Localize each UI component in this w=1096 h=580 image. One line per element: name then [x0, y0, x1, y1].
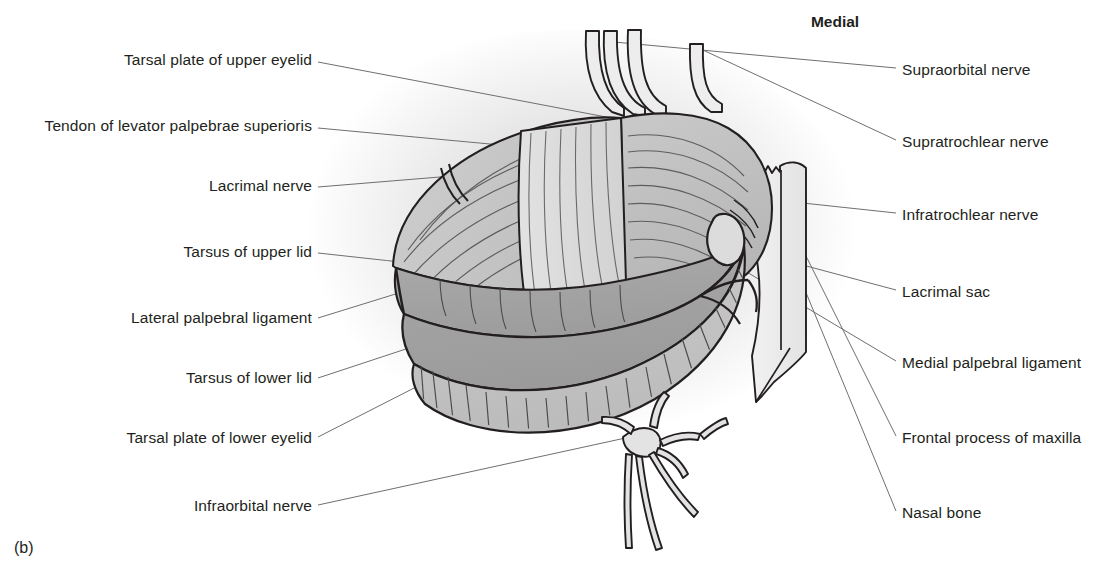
orientation-header: Medial: [811, 14, 859, 30]
infraorbital-branch-descending-1: [625, 454, 633, 548]
label-tarsus-lower-lid: Tarsus of lower lid: [0, 370, 312, 386]
label-lateral-palpebral-ligament: Lateral palpebral ligament: [0, 310, 312, 326]
panel-label: (b): [14, 540, 34, 556]
lacrimal-sac-group: [707, 214, 744, 265]
label-nasal-bone: Nasal bone: [902, 505, 981, 521]
label-medial-palpebral-ligament: Medial palpebral ligament: [902, 355, 1081, 371]
label-tarsal-plate-upper-eyelid: Tarsal plate of upper eyelid: [0, 52, 312, 68]
lacrimal-sac-shape: [707, 214, 744, 265]
label-tendon-levator-palpebrae: Tendon of levator palpebrae superioris: [0, 118, 312, 134]
label-supratrochlear-nerve: Supratrochlear nerve: [902, 134, 1049, 150]
label-infraorbital-nerve: Infraorbital nerve: [0, 498, 312, 514]
anatomy-figure: Medial Tarsal plate of upper eyelidTendo…: [0, 0, 1096, 580]
label-lacrimal-nerve: Lacrimal nerve: [0, 178, 312, 194]
label-tarsus-upper-lid: Tarsus of upper lid: [0, 244, 312, 260]
label-lacrimal-sac: Lacrimal sac: [902, 284, 990, 300]
label-tarsal-plate-lower-eyelid: Tarsal plate of lower eyelid: [0, 430, 312, 446]
label-frontal-process-maxilla: Frontal process of maxilla: [902, 430, 1081, 446]
label-supraorbital-nerve: Supraorbital nerve: [902, 62, 1030, 78]
label-infratrochlear-nerve: Infratrochlear nerve: [902, 207, 1038, 223]
